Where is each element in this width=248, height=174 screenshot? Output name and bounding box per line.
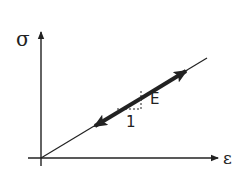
slope-label: E xyxy=(150,90,159,108)
y-axis-label: σ xyxy=(16,27,30,51)
loading-arrow xyxy=(140,71,186,99)
stress-strain-diagram: σ ε E 1 xyxy=(0,0,248,174)
x-axis-label: ε xyxy=(223,148,232,168)
run-label: 1 xyxy=(126,113,136,131)
